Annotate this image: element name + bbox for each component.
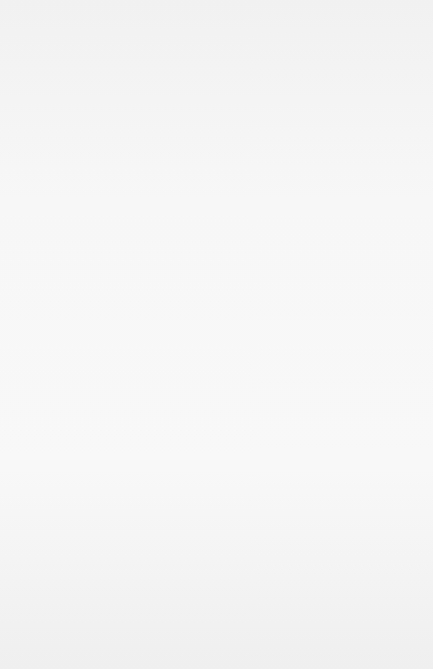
lined-paper-sheet (0, 0, 433, 669)
